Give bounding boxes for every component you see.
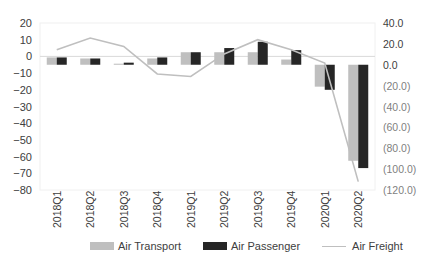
category-label: 2019Q2 [218, 190, 230, 228]
bar-air-transport [47, 57, 57, 64]
bar-air-transport [348, 65, 358, 161]
bar-air-passenger [57, 57, 67, 64]
bar-air-passenger [258, 42, 268, 65]
category-label: 2018Q4 [151, 190, 163, 228]
bar-air-transport [315, 65, 325, 87]
bar-air-passenger [191, 52, 201, 65]
left-y-axis: 20100−10−20−30−40−50−60−70−80 [13, 17, 32, 196]
bar-air-passenger [90, 58, 100, 64]
right-axis-tick-label: (60.0) [383, 121, 410, 133]
air-freight-line-swatch-icon [322, 246, 346, 247]
legend-label: Air Passenger [231, 240, 300, 252]
legend-item-air-freight: Air Freight [322, 240, 403, 252]
left-axis-tick-label: −60 [13, 151, 32, 163]
category-label: 2019Q4 [285, 190, 297, 228]
air-passenger-swatch-icon [203, 242, 227, 250]
legend-item-air-transport: Air Transport [90, 240, 181, 252]
left-axis-tick-label: 0 [26, 50, 32, 62]
category-label: 2018Q2 [84, 190, 96, 228]
category-label: 2019Q1 [185, 190, 197, 228]
right-axis-tick-label: (40.0) [383, 101, 410, 113]
category-label: 2018Q3 [118, 190, 130, 228]
left-axis-tick-label: −20 [13, 84, 32, 96]
category-label: 2020Q1 [319, 190, 331, 228]
category-label: 2019Q3 [252, 190, 264, 228]
left-axis-tick-label: −10 [13, 67, 32, 79]
bar-air-passenger [124, 63, 134, 65]
right-y-axis: 40.020.00.0(20.0)(40.0)(60.0)(80.0)(100.… [383, 17, 416, 196]
bar-air-transport [181, 52, 191, 65]
left-axis-tick-label: −50 [13, 134, 32, 146]
air-transport-swatch-icon [90, 242, 114, 250]
bar-air-transport [281, 60, 291, 65]
right-axis-tick-label: 0.0 [383, 59, 398, 71]
legend-item-air-passenger: Air Passenger [203, 240, 300, 252]
right-axis-tick-label: (80.0) [383, 142, 410, 154]
plot-area [40, 23, 375, 190]
bar-air-transport [248, 52, 258, 65]
left-axis-tick-label: −80 [13, 184, 32, 196]
bar-air-transport [80, 58, 90, 64]
left-axis-tick-label: 10 [20, 34, 32, 46]
left-axis-tick-label: −70 [13, 167, 32, 179]
left-axis-tick-label: 20 [20, 17, 32, 29]
category-label: 2020Q2 [352, 190, 364, 228]
category-label: 2018Q1 [51, 190, 63, 228]
combo-chart: 20100−10−20−30−40−50−60−70−80 40.020.00.… [0, 0, 429, 235]
left-axis-tick-label: −40 [13, 117, 32, 129]
right-axis-tick-label: (100.0) [383, 163, 416, 175]
right-axis-tick-label: 40.0 [383, 17, 404, 29]
bar-air-passenger [358, 65, 368, 168]
right-axis-tick-label: 20.0 [383, 38, 404, 50]
right-axis-tick-label: (20.0) [383, 80, 410, 92]
legend-label: Air Transport [118, 240, 181, 252]
legend-label: Air Freight [352, 240, 403, 252]
left-axis-tick-label: −30 [13, 101, 32, 113]
x-axis-category-labels: 2018Q12018Q22018Q32018Q42019Q12019Q22019… [51, 190, 365, 228]
bar-air-transport [147, 58, 157, 64]
right-axis-tick-label: (120.0) [383, 184, 416, 196]
bar-air-passenger [157, 57, 167, 64]
bar-air-transport [114, 64, 124, 65]
legend: Air Transport Air Passenger Air Freight [90, 240, 425, 252]
